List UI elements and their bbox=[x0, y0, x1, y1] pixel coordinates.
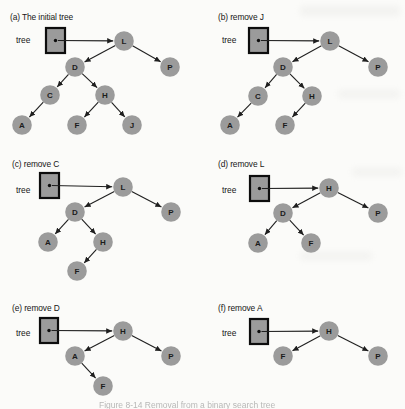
edge-H-J bbox=[112, 102, 125, 117]
tree-node-P: P bbox=[368, 57, 388, 77]
node-letter: A bbox=[19, 121, 25, 130]
edge-L-D bbox=[292, 46, 321, 62]
node-letter: H bbox=[102, 91, 108, 100]
scan-bleed-artifact bbox=[300, 252, 372, 260]
edge-D-H bbox=[82, 219, 96, 234]
tree-node-H: H bbox=[93, 232, 113, 252]
edge-H-F bbox=[84, 102, 98, 117]
tree-node-F: F bbox=[93, 376, 113, 396]
edge-D-H bbox=[82, 74, 97, 88]
edge-C-A bbox=[238, 103, 252, 117]
tree-node-D: D bbox=[65, 57, 85, 77]
node-letter: A bbox=[227, 121, 233, 130]
figure-caption: Figure 8-14 Removal from a binary search… bbox=[99, 400, 389, 409]
pointer-dot bbox=[257, 39, 260, 42]
tree-node-F: F bbox=[67, 115, 87, 135]
tree-pointer-label: tree bbox=[222, 185, 237, 195]
edge-H-P bbox=[132, 336, 162, 351]
tree-pointer-label: tree bbox=[16, 328, 31, 338]
tree-node-D: D bbox=[65, 202, 85, 222]
tree-node-P: P bbox=[161, 202, 181, 222]
node-letter: C bbox=[255, 92, 261, 101]
node-letter: P bbox=[375, 63, 381, 72]
node-letter: D bbox=[72, 63, 78, 72]
tree-pointer-label: tree bbox=[16, 185, 31, 195]
node-letter: F bbox=[309, 239, 314, 248]
tree-node-A: A bbox=[65, 346, 85, 366]
node-letter: L bbox=[122, 37, 127, 46]
edge-L-D bbox=[85, 192, 115, 207]
tree-node-L: L bbox=[114, 31, 134, 51]
scan-bleed-artifact bbox=[338, 90, 400, 98]
tree-node-F: F bbox=[273, 346, 293, 366]
scan-bleed-artifact bbox=[352, 168, 402, 176]
pointer-dot bbox=[258, 187, 261, 190]
node-letter: P bbox=[168, 208, 174, 217]
node-letter: F bbox=[75, 267, 80, 276]
edge-L-P bbox=[132, 192, 162, 207]
tree-node-F: F bbox=[275, 115, 295, 135]
node-letter: H bbox=[100, 238, 106, 247]
edge-D-C bbox=[265, 74, 277, 87]
tree-node-F: F bbox=[67, 261, 87, 281]
node-letter: L bbox=[121, 183, 126, 192]
tree-node-H: H bbox=[95, 85, 115, 105]
tree-pointer-label: tree bbox=[222, 35, 237, 45]
edge-H-F bbox=[292, 103, 305, 117]
tree-node-L: L bbox=[113, 177, 133, 197]
panel-b-label: (b) remove J bbox=[218, 12, 264, 22]
panel-a-label: (a) The initial tree bbox=[10, 12, 73, 22]
edge-H-F bbox=[292, 336, 320, 351]
tree-node-A: A bbox=[12, 115, 32, 135]
tree-pointer-label: tree bbox=[222, 328, 237, 338]
tree-node-H: H bbox=[319, 178, 339, 198]
node-letter: H bbox=[326, 327, 332, 336]
tree-node-A: A bbox=[220, 115, 240, 135]
scan-bleed-artifact bbox=[300, 6, 400, 16]
panel-b: (b) remove JtreeLDPCHAF bbox=[218, 12, 388, 135]
panel-c: (c) remove CtreeLDPAHF bbox=[12, 159, 181, 281]
tree-node-C: C bbox=[248, 86, 268, 106]
node-letter: P bbox=[167, 63, 173, 72]
edge-H-F bbox=[84, 249, 96, 263]
tree-node-L: L bbox=[320, 31, 340, 51]
node-letter: C bbox=[47, 91, 53, 100]
tree-node-D: D bbox=[273, 203, 293, 223]
edge-L-D bbox=[85, 46, 116, 62]
edge-L-P bbox=[133, 46, 161, 62]
panel-c-label: (c) remove C bbox=[12, 159, 59, 169]
edge-H-P bbox=[338, 192, 369, 208]
node-letter: A bbox=[255, 239, 261, 248]
edge-D-F bbox=[290, 220, 304, 235]
tree-node-H: H bbox=[319, 321, 339, 341]
node-letter: F bbox=[281, 352, 286, 361]
edge-D-A bbox=[265, 221, 277, 235]
node-letter: F bbox=[75, 121, 80, 130]
tree-node-C: C bbox=[40, 85, 60, 105]
bst-removal-diagram: (a) The initial treetreeLDPCHAFJ(b) remo… bbox=[0, 0, 405, 409]
node-letter: H bbox=[326, 184, 332, 193]
edge-D-H bbox=[290, 74, 304, 88]
tree-node-F: F bbox=[301, 233, 321, 253]
figure-page: (a) The initial treetreeLDPCHAFJ(b) remo… bbox=[0, 0, 405, 409]
panel-d-label: (d) remove L bbox=[218, 159, 265, 169]
pointer-dot bbox=[257, 330, 260, 333]
node-letter: F bbox=[101, 382, 106, 391]
tree-node-A: A bbox=[38, 232, 58, 252]
node-letter: P bbox=[375, 209, 381, 218]
panel-e-label: (e) remove D bbox=[12, 303, 60, 313]
panel-a: (a) The initial treetreeLDPCHAFJ bbox=[10, 12, 180, 135]
node-letter: D bbox=[280, 209, 286, 218]
edge-C-A bbox=[29, 102, 43, 117]
tree-node-A: A bbox=[248, 233, 268, 253]
pointer-dot bbox=[47, 329, 50, 332]
node-letter: D bbox=[72, 208, 78, 217]
tree-node-P: P bbox=[368, 346, 388, 366]
node-letter: A bbox=[45, 238, 51, 247]
tree-node-P: P bbox=[161, 346, 181, 366]
node-letter: F bbox=[283, 121, 288, 130]
tree-node-J: J bbox=[122, 115, 142, 135]
node-letter: L bbox=[328, 37, 333, 46]
tree-node-H: H bbox=[113, 321, 133, 341]
edge-H-P bbox=[338, 335, 369, 351]
